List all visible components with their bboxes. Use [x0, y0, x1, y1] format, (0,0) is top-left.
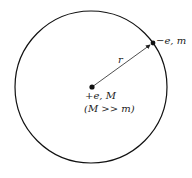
mass-relation-label: (M >> m) — [84, 103, 135, 114]
electron-dot — [151, 41, 156, 46]
bohr-atom-diagram: r −e, m +e, M (M >> m) — [0, 0, 192, 178]
radius-label: r — [118, 54, 124, 65]
electron-label: −e, m — [156, 35, 186, 46]
radius-arrow — [92, 45, 150, 87]
nucleus-dot — [89, 84, 94, 89]
nucleus-label: +e, M — [85, 90, 117, 101]
